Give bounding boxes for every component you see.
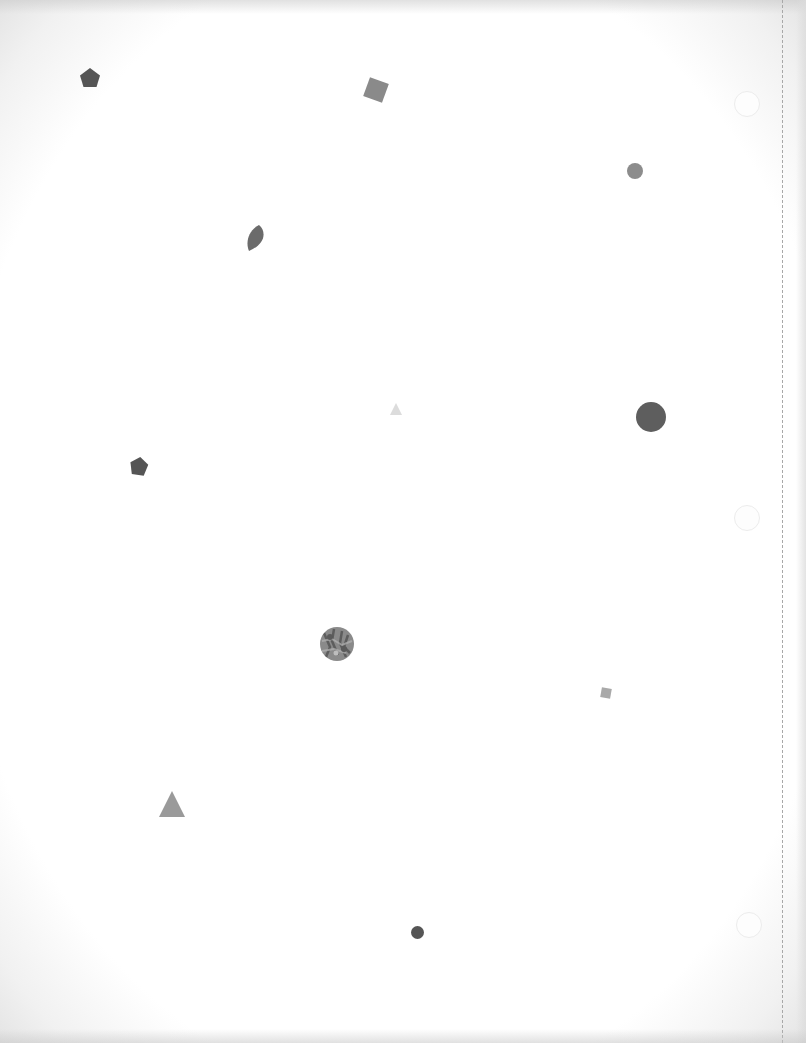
pentagon-shape	[129, 456, 149, 476]
punch-hole-bottom	[736, 912, 762, 938]
scanned-page	[0, 0, 806, 1043]
triangle-shape-faint	[389, 402, 403, 416]
circle-shape-large	[636, 402, 666, 432]
punch-hole-middle	[734, 505, 760, 531]
leaf-shape	[245, 224, 267, 252]
square-shape-small	[600, 687, 612, 699]
circle-shape-dark	[411, 926, 424, 939]
square-shape	[362, 76, 390, 104]
punch-hole-top	[734, 91, 760, 117]
pentagon-shape	[79, 67, 101, 89]
textured-circle-shape	[320, 627, 354, 661]
dashed-margin-line	[782, 0, 783, 1043]
triangle-shape	[158, 790, 186, 818]
circle-shape-small	[627, 163, 643, 179]
page-edge-shadow	[796, 0, 806, 1043]
